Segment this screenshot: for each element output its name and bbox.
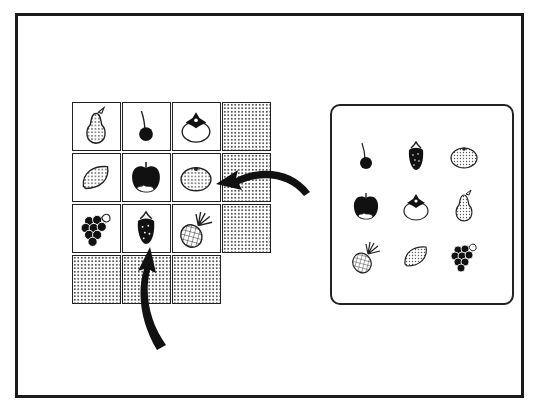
- option-pear-icon[interactable]: [444, 186, 484, 226]
- option-persimmon-icon[interactable]: [396, 186, 436, 226]
- grid-cell-r1c3: [172, 102, 221, 151]
- persimmon-icon: [173, 103, 219, 149]
- option-mandarin-icon[interactable]: [444, 136, 484, 176]
- options-panel: [330, 104, 514, 305]
- option-grapes-icon[interactable]: [444, 236, 484, 276]
- grid-cell-r3c4-empty[interactable]: [222, 204, 271, 253]
- curved-arrow-right-icon: [210, 160, 315, 200]
- apple-icon: [123, 154, 169, 200]
- grid-cell-r2c2: [122, 153, 171, 202]
- pear-icon: [73, 103, 119, 149]
- grapes-icon: [73, 205, 119, 251]
- grid-cell-r4c1-empty[interactable]: [72, 255, 121, 304]
- option-cherry-icon[interactable]: [346, 136, 386, 176]
- curved-arrow-up-icon: [130, 245, 170, 355]
- option-pineapple-icon[interactable]: [346, 236, 386, 276]
- cherry-icon: [123, 103, 169, 149]
- grid-cell-r1c1: [72, 102, 121, 151]
- lemon-icon: [73, 154, 119, 200]
- grid-cell-r4c3-empty[interactable]: [172, 255, 221, 304]
- grid-cell-r2c1: [72, 153, 121, 202]
- grid-cell-r3c3: [172, 204, 221, 253]
- option-strawberry-icon[interactable]: [396, 136, 436, 176]
- option-apple-icon[interactable]: [346, 186, 386, 226]
- option-lemon-icon[interactable]: [396, 236, 436, 276]
- grid-cell-r1c2: [122, 102, 171, 151]
- grid-cell-r1c4-empty[interactable]: [222, 102, 271, 151]
- grid-cell-r3c1: [72, 204, 121, 253]
- pineapple-icon: [173, 205, 219, 251]
